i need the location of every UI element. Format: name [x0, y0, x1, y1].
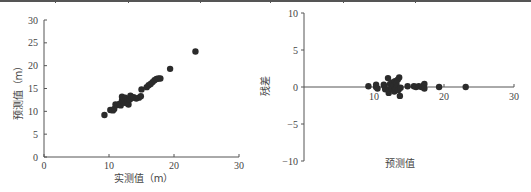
y-tick-label: 0	[293, 82, 298, 93]
data-point	[404, 83, 410, 89]
y-axis-label: 残差	[259, 76, 271, 96]
data-point	[397, 85, 403, 91]
data-point	[397, 93, 403, 99]
x-tick-label: 30	[509, 91, 519, 102]
residual-scatter: −10−50510102030预测值残差	[0, 0, 531, 192]
y-tick-label: 5	[293, 45, 298, 56]
data-point	[396, 74, 402, 80]
x-axis-label: 预测值	[385, 157, 415, 169]
data-point	[436, 84, 442, 90]
data-point	[365, 83, 371, 89]
x-tick-label: 20	[439, 91, 449, 102]
x-tick-label: 10	[369, 91, 379, 102]
data-point	[381, 82, 387, 88]
y-tick-label: −5	[287, 119, 298, 130]
y-tick-label: 10	[288, 8, 298, 19]
data-point	[463, 84, 469, 90]
data-point	[421, 85, 427, 91]
y-tick-label: −10	[282, 156, 298, 167]
data-point	[374, 85, 380, 91]
